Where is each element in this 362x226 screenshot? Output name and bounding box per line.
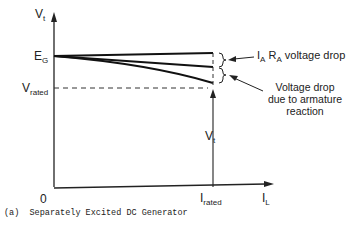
vt-arrow-icon [210, 89, 216, 98]
ia-ra-annotation: IA RA voltage drop [257, 50, 345, 64]
irated-label: Irated [200, 192, 222, 207]
x-axis [54, 184, 266, 188]
eg-label: EG [34, 50, 48, 65]
armature-pointer-arrow-icon [229, 75, 238, 81]
ia-ra-brace [219, 53, 226, 67]
eg-line [54, 53, 213, 56]
vrated-label: Vrated [22, 82, 48, 97]
ia-ra-pointer [234, 57, 254, 59]
armature-brace [219, 68, 226, 83]
origin-label: 0 [40, 193, 47, 205]
figure-caption: (a) Separately Excited DC Generator [4, 208, 188, 218]
y-axis-arrow-icon [51, 12, 57, 22]
terminal-voltage-curve [54, 56, 213, 83]
vt-label: Vt [205, 130, 215, 145]
y-axis-label: Vt [35, 8, 45, 23]
ia-ra-pointer-arrow-icon [228, 56, 236, 62]
x-axis-label: IL [262, 192, 270, 207]
x-axis-arrow-icon [264, 181, 274, 187]
armature-annotation: Voltage drop due to armature reaction [250, 81, 360, 117]
